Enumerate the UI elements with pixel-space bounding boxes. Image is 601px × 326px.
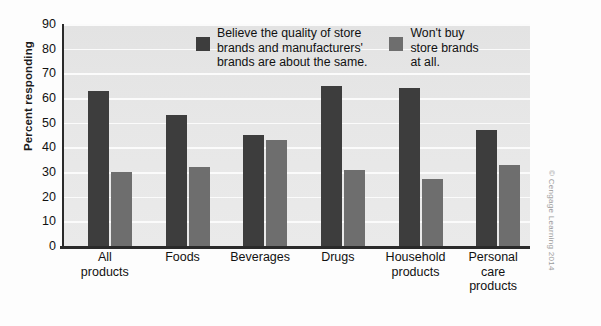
bar [344,170,365,246]
y-axis-tick: 10 [22,215,56,228]
y-axis-tick: 30 [22,166,56,179]
bar [243,135,264,246]
x-axis-line [60,246,530,249]
copyright-credit: © Cengage Learning 2014 [547,170,556,271]
y-axis-tick: 0 [22,240,56,253]
bar [266,140,287,246]
legend-label: Believe the quality of store brands and … [217,26,367,70]
bar [88,91,109,246]
bar [422,179,443,246]
y-axis-tick: 80 [22,42,56,55]
y-axis-tick: 90 [22,18,56,31]
bar [399,88,420,246]
bar [476,130,497,246]
x-axis-tick: Personalcareproducts [445,250,541,294]
y-axis-tick-labels: 9080706050403020100 [22,24,56,246]
bar [189,167,210,246]
legend-item: Believe the quality of store brands and … [196,26,367,70]
bar-group [82,24,160,246]
legend-item: Won't buy store brands at all. [389,26,478,70]
bar-group [470,24,548,246]
y-axis-tick: 20 [22,190,56,203]
legend-swatch-icon [389,37,403,51]
legend-label: Won't buy store brands at all. [410,26,478,70]
y-axis-tick: 50 [22,116,56,129]
bar [499,165,520,246]
bar-chart-figure: Percent responding 9080706050403020100 A… [0,0,601,326]
bar [111,172,132,246]
y-axis-tick: 60 [22,92,56,105]
bar [166,115,187,246]
y-axis-tick: 40 [22,141,56,154]
y-axis-tick: 70 [22,67,56,80]
bar [321,86,342,246]
chart-legend: Believe the quality of store brands and … [196,26,479,70]
legend-swatch-icon [196,37,210,51]
x-axis-tick-labels: AllproductsFoodsBeveragesDrugsHouseholdp… [62,250,528,320]
